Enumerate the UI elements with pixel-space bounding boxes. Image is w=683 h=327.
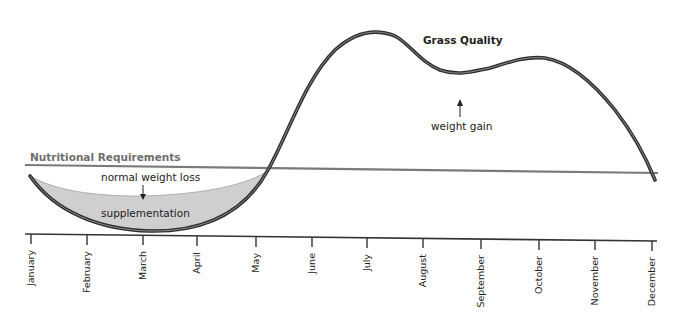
month-label: August bbox=[417, 254, 428, 288]
month-label: December bbox=[646, 257, 657, 306]
grass-quality-diagram: January February March April May June Ju… bbox=[0, 0, 683, 327]
month-label: July bbox=[361, 254, 372, 272]
month-label: May bbox=[250, 253, 261, 273]
grass-quality-label: Grass Quality bbox=[423, 34, 503, 46]
month-label: October bbox=[533, 256, 544, 294]
month-label: January bbox=[25, 250, 36, 287]
axis-ticks bbox=[31, 234, 652, 251]
month-labels: January February March April May June Ju… bbox=[25, 250, 657, 308]
weight-gain-label: weight gain bbox=[431, 120, 492, 132]
up-arrow-icon bbox=[457, 99, 463, 117]
month-label: March bbox=[137, 251, 148, 280]
month-label: September bbox=[475, 255, 486, 308]
month-label: June bbox=[306, 253, 317, 275]
x-axis bbox=[25, 234, 657, 241]
normal-weight-loss-label: normal weight loss bbox=[101, 171, 200, 183]
month-label: February bbox=[81, 251, 92, 293]
nutritional-requirements-label: Nutritional Requirements bbox=[30, 151, 181, 163]
supplementation-label: supplementation bbox=[101, 207, 190, 219]
month-label: April bbox=[191, 252, 202, 274]
month-label: November bbox=[589, 256, 600, 306]
